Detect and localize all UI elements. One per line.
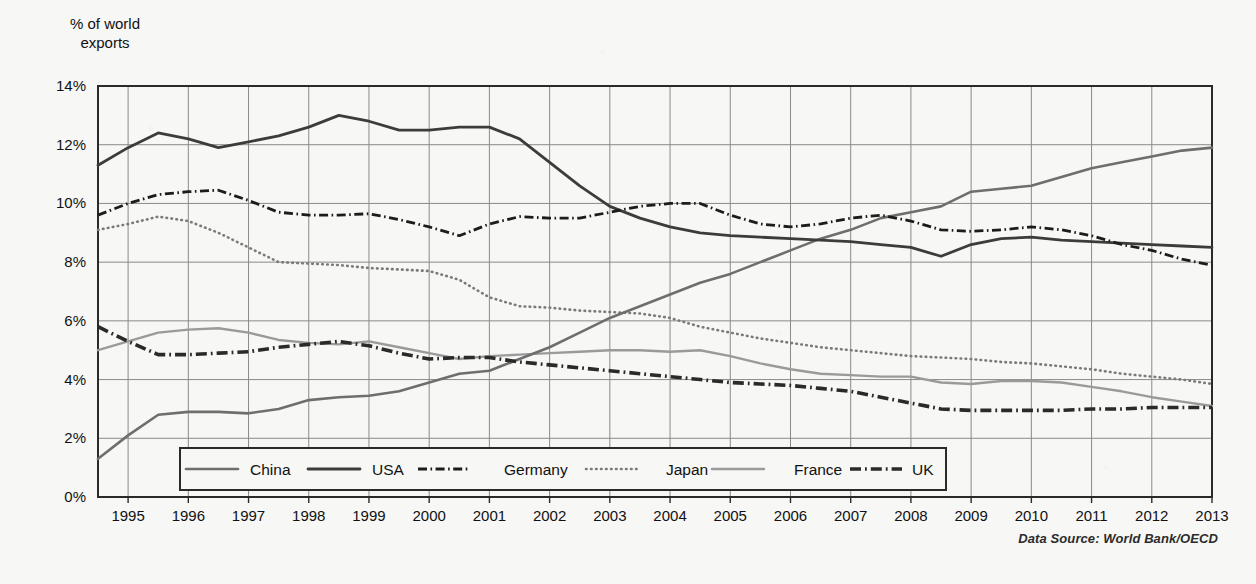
y-tick-label: 14%	[56, 77, 86, 94]
x-tick-label: 2007	[834, 507, 867, 524]
x-tick-label: 2000	[413, 507, 446, 524]
x-tick-labels: 1995199619971998199920002001200220032004…	[111, 507, 1228, 524]
x-tick-label: 1998	[292, 507, 325, 524]
data-source-note: Data Source: World Bank/OECD	[1018, 531, 1218, 546]
grid-layer	[98, 86, 1212, 497]
y-tick-labels: 0%2%4%6%8%10%12%14%	[56, 77, 86, 505]
x-tick-label: 2012	[1135, 507, 1168, 524]
x-tick-label: 2006	[774, 507, 807, 524]
series-line-uk	[98, 327, 1212, 411]
line-chart: 0%2%4%6%8%10%12%14% 19951996199719981999…	[0, 0, 1256, 584]
x-tick-label: 2009	[954, 507, 987, 524]
x-tick-label: 2011	[1075, 507, 1107, 524]
chart-legend: ChinaUSAGermanyJapanFranceUK	[180, 448, 946, 490]
series-line-usa	[98, 115, 1212, 256]
legend-label-uk: UK	[912, 461, 934, 478]
legend-label-usa: USA	[372, 461, 405, 478]
x-tick-label: 1996	[172, 507, 205, 524]
y-tick-label: 4%	[64, 371, 86, 388]
y-tick-label: 10%	[56, 194, 86, 211]
x-tick-label: 2005	[714, 507, 747, 524]
x-tick-label: 2003	[593, 507, 626, 524]
y-tick-label: 12%	[56, 136, 86, 153]
legend-label-germany: Germany	[504, 461, 568, 478]
y-tick-label: 8%	[64, 253, 86, 270]
y-tick-label: 6%	[64, 312, 86, 329]
x-tick-label: 1999	[352, 507, 385, 524]
x-tick-label: 2013	[1195, 507, 1228, 524]
y-tick-label: 2%	[64, 429, 86, 446]
x-tick-label: 2001	[473, 507, 506, 524]
x-tick-label: 2004	[653, 507, 686, 524]
legend-label-japan: Japan	[666, 461, 708, 478]
series-line-france	[98, 328, 1212, 406]
x-tick-label: 2002	[533, 507, 566, 524]
plot-border	[98, 86, 1212, 497]
y-tick-label: 0%	[64, 488, 86, 505]
x-tick-label: 1997	[232, 507, 265, 524]
x-tick-label: 1995	[111, 507, 144, 524]
chart-page: % of world exports 0%2%4%6%8%10%12%14% 1…	[0, 0, 1256, 584]
x-tick-label: 2010	[1015, 507, 1048, 524]
legend-label-china: China	[250, 461, 291, 478]
legend-label-france: France	[794, 461, 842, 478]
series-layer	[98, 115, 1212, 458]
series-line-germany	[98, 190, 1212, 265]
x-tick-label: 2008	[894, 507, 927, 524]
